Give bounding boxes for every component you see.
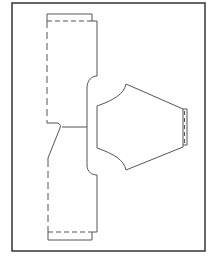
body-center-notch — [47, 123, 61, 160]
bottom-band — [48, 232, 92, 240]
top-band — [47, 14, 92, 21]
frame-border — [12, 3, 205, 251]
pattern-diagram — [0, 0, 210, 257]
sleeve-piece — [97, 84, 187, 170]
body-right-edge — [87, 21, 97, 232]
sleeve-outline — [97, 84, 183, 170]
body-piece — [47, 14, 97, 240]
